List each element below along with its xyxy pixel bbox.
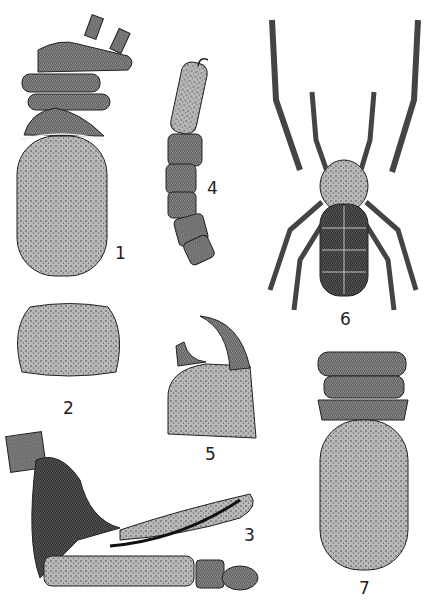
figure-2-drawing — [18, 304, 120, 377]
illustration-plate: 1 2 3 4 5 6 7 — [0, 0, 428, 605]
figure-1-drawing — [17, 15, 132, 276]
figure-6-drawing — [270, 20, 418, 310]
figure-5-label: 5 — [205, 446, 216, 463]
figure-6-label: 6 — [340, 311, 351, 328]
figure-7-label: 7 — [359, 580, 370, 597]
figure-5-drawing — [168, 316, 256, 438]
figure-4-label: 4 — [207, 180, 218, 197]
figure-3-drawing — [6, 432, 258, 590]
figure-2-label: 2 — [63, 400, 74, 417]
figure-4-drawing — [166, 59, 216, 267]
figure-3-label: 3 — [244, 527, 255, 544]
plate-drawings — [0, 0, 428, 605]
figure-1-label: 1 — [115, 245, 126, 262]
figure-7-drawing — [318, 352, 408, 570]
